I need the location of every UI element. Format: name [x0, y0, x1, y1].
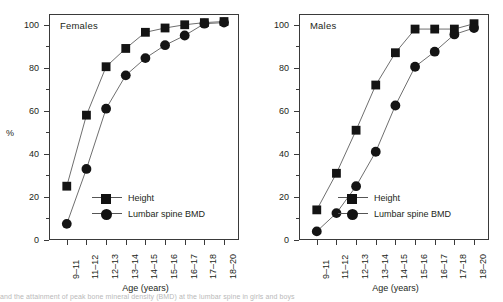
- square-marker-icon: [92, 191, 122, 205]
- y-tick-minor: [46, 218, 49, 219]
- x-tick-label: 18–20: [228, 254, 238, 279]
- y-tick-label: 20: [13, 192, 39, 202]
- x-tick: [415, 240, 416, 245]
- y-tick-minor: [46, 175, 49, 176]
- y-tick-minor: [296, 89, 299, 90]
- y-tick-major: [294, 240, 299, 241]
- y-axis-label-females: %: [6, 128, 14, 138]
- legend-label-height: Height: [374, 193, 400, 203]
- y-tick-minor: [46, 46, 49, 47]
- x-tick: [126, 240, 127, 245]
- y-tick-major: [294, 154, 299, 155]
- x-tick-label: 15–16: [169, 254, 179, 279]
- x-tick: [145, 240, 146, 245]
- x-tick: [317, 240, 318, 245]
- x-axis-title-females: Age (years): [20, 283, 271, 293]
- y-tick-major: [44, 240, 49, 241]
- legend-item-height: Height: [338, 190, 451, 206]
- y-tick-major: [294, 68, 299, 69]
- y-tick-major: [44, 197, 49, 198]
- x-tick-label: 11–12: [340, 255, 350, 279]
- x-tick: [185, 240, 186, 245]
- x-tick-label: 9–11: [321, 260, 331, 279]
- x-tick-label: 15–16: [419, 254, 429, 279]
- x-tick-label: 18–20: [478, 254, 488, 279]
- x-tick-label: 14–15: [399, 254, 409, 279]
- legend-females: Height Lumbar spine BMD: [92, 190, 205, 222]
- caption-fragment: and the attainment of peak bone mineral …: [0, 293, 503, 302]
- x-tick-label: 12–13: [360, 254, 370, 279]
- x-tick-label: 16–17: [439, 254, 449, 279]
- x-tick-label: 13–14: [130, 254, 140, 279]
- x-tick: [454, 240, 455, 245]
- legend-item-bmd: Lumbar spine BMD: [338, 206, 451, 222]
- x-tick-label: 16–17: [189, 254, 199, 279]
- y-tick-major: [294, 197, 299, 198]
- x-tick-label: 12–13: [110, 254, 120, 279]
- x-tick: [106, 240, 107, 245]
- y-tick-label: 40: [13, 149, 39, 159]
- square-marker-icon: [338, 191, 368, 205]
- y-tick-major: [294, 25, 299, 26]
- y-tick-label: 0: [13, 235, 39, 245]
- y-tick-major: [44, 111, 49, 112]
- y-tick-major: [294, 111, 299, 112]
- x-tick: [165, 240, 166, 245]
- panel-title-males: Males: [310, 20, 336, 31]
- y-tick-label: 80: [13, 63, 39, 73]
- figure-two-panel-growth-chart: Females % 0204060801009–1111–1212–1313–1…: [0, 0, 503, 302]
- y-tick-minor: [296, 132, 299, 133]
- y-tick-label: 100: [263, 20, 289, 30]
- legend-label-bmd: Lumbar spine BMD: [374, 209, 451, 219]
- legend-males: Height Lumbar spine BMD: [338, 190, 451, 222]
- circle-marker-icon: [92, 207, 122, 221]
- y-tick-label: 20: [263, 192, 289, 202]
- x-tick-label: 14–15: [149, 254, 159, 279]
- legend-label-bmd: Lumbar spine BMD: [128, 209, 205, 219]
- y-tick-label: 60: [263, 106, 289, 116]
- legend-item-height: Height: [92, 190, 205, 206]
- x-tick: [204, 240, 205, 245]
- x-tick: [376, 240, 377, 245]
- y-tick-label: 100: [13, 20, 39, 30]
- x-tick: [86, 240, 87, 245]
- x-tick: [67, 240, 68, 245]
- x-tick: [356, 240, 357, 245]
- y-tick-label: 40: [263, 149, 289, 159]
- y-tick-label: 60: [13, 106, 39, 116]
- x-axis-title-males: Age (years): [270, 283, 503, 293]
- y-tick-major: [44, 154, 49, 155]
- x-tick: [395, 240, 396, 245]
- x-tick-label: 17–18: [208, 254, 218, 279]
- y-tick-major: [44, 68, 49, 69]
- panel-males: Males 0204060801009–1111–1212–1313–1414–…: [252, 0, 503, 302]
- x-tick: [336, 240, 337, 245]
- y-tick-minor: [296, 46, 299, 47]
- circle-marker-icon: [338, 207, 368, 221]
- y-tick-minor: [296, 175, 299, 176]
- y-tick-minor: [296, 218, 299, 219]
- x-tick-label: 11–12: [90, 255, 100, 279]
- legend-label-height: Height: [128, 193, 154, 203]
- panel-title-females: Females: [60, 20, 98, 31]
- x-tick-label: 17–18: [458, 254, 468, 279]
- x-tick: [224, 240, 225, 245]
- y-tick-minor: [46, 132, 49, 133]
- y-tick-minor: [46, 89, 49, 90]
- panel-females: Females % 0204060801009–1111–1212–1313–1…: [0, 0, 251, 302]
- x-tick: [474, 240, 475, 245]
- legend-item-bmd: Lumbar spine BMD: [92, 206, 205, 222]
- x-tick-label: 13–14: [380, 254, 390, 279]
- y-tick-label: 0: [263, 235, 289, 245]
- y-tick-major: [44, 25, 49, 26]
- x-tick-label: 9–11: [71, 260, 81, 279]
- x-tick: [435, 240, 436, 245]
- y-tick-label: 80: [263, 63, 289, 73]
